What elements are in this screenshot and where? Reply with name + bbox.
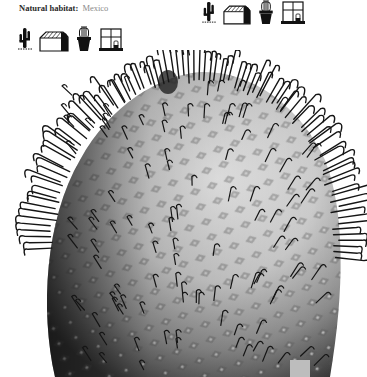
potted-cactus-icon: [258, 0, 274, 25]
greenhouse-icon: [39, 30, 69, 52]
potted-cactus-icon: [76, 26, 92, 52]
habitat-line: Natural habitat: Mexico: [19, 2, 108, 14]
cactus-outdoor-icon: [202, 0, 216, 25]
windowsill-icon: [281, 1, 305, 25]
greenhouse-icon: [223, 4, 251, 25]
habitat-value: Mexico: [82, 3, 108, 13]
care-icons-right: [202, 0, 312, 25]
care-icons-left: [18, 26, 130, 52]
cactus-photo: [0, 50, 367, 377]
windowsill-icon: [99, 28, 123, 52]
cactus-outdoor-icon: [18, 26, 32, 52]
habitat-label: Natural habitat:: [19, 3, 78, 13]
